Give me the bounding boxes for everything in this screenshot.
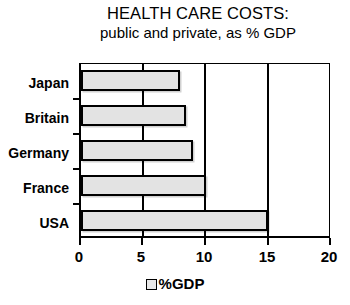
x-axis-tick-20	[329, 238, 331, 245]
y-axis-label-france: France	[0, 180, 69, 196]
bar-chart: Japan Britain Germany France USA	[0, 0, 350, 305]
bar-germany[interactable]	[81, 140, 193, 161]
legend-item-label: %GDP	[159, 276, 205, 292]
bar-row	[81, 204, 329, 239]
bar-usa[interactable]	[81, 210, 268, 231]
bar-row	[81, 99, 329, 134]
x-axis-tick-0	[79, 238, 81, 245]
x-axis-tick-10	[204, 238, 206, 245]
x-axis-tick-15	[267, 238, 269, 245]
plot-area	[79, 63, 330, 238]
bar-japan[interactable]	[81, 70, 180, 91]
x-axis-label-10: 10	[184, 248, 224, 265]
y-axis-label-usa: USA	[0, 215, 69, 231]
legend-swatch-icon	[146, 279, 157, 290]
bar-row	[81, 64, 329, 99]
y-axis-label-britain: Britain	[0, 110, 69, 126]
bar-britain[interactable]	[81, 105, 186, 126]
x-axis-label-5: 5	[121, 248, 161, 265]
y-axis-label-germany: Germany	[0, 145, 69, 161]
x-axis-tick-5	[141, 238, 143, 245]
x-axis-label-20: 20	[309, 248, 349, 265]
bar-row	[81, 134, 329, 169]
bar-row	[81, 169, 329, 204]
chart-legend: %GDP	[0, 276, 350, 292]
x-axis-label-15: 15	[247, 248, 287, 265]
legend-item-gdp[interactable]: %GDP	[146, 276, 205, 292]
bar-france[interactable]	[81, 175, 206, 196]
y-axis-labels: Japan Britain Germany France USA	[0, 63, 74, 238]
x-axis-label-0: 0	[59, 248, 99, 265]
y-axis-label-japan: Japan	[0, 75, 69, 91]
